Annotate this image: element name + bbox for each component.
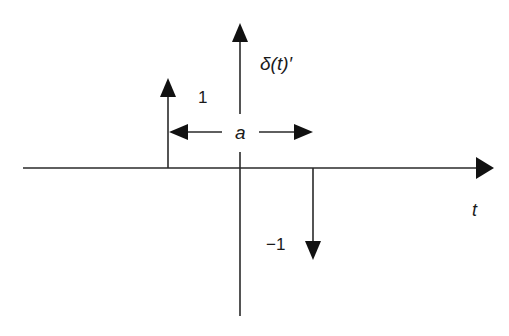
time-axis-label: t — [472, 200, 478, 220]
impulse-up-arrowhead-icon — [160, 78, 176, 97]
impulse-down-arrowhead-icon — [305, 241, 321, 260]
negative-impulse — [305, 168, 321, 260]
negative-amplitude-label: −1 — [266, 235, 285, 254]
doublet-diagram: δ(t)′ 1 a −1 t — [0, 0, 509, 336]
vertical-axis — [232, 23, 248, 316]
positive-impulse — [160, 78, 176, 168]
spacing-right-arrowhead-icon — [294, 124, 313, 140]
spacing-label: a — [235, 122, 246, 143]
function-label: δ(t)′ — [260, 53, 293, 74]
spacing-left-arrowhead-icon — [169, 124, 188, 140]
positive-amplitude-label: 1 — [198, 88, 207, 107]
time-axis-arrowhead-icon — [476, 157, 494, 179]
time-axis — [23, 157, 494, 179]
vertical-axis-arrowhead-icon — [232, 23, 248, 42]
